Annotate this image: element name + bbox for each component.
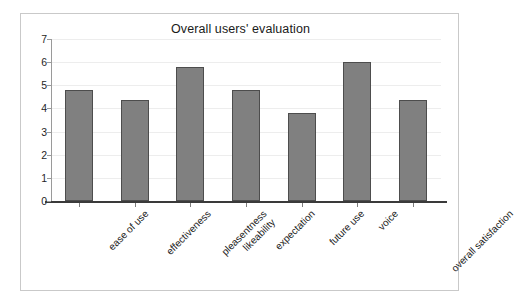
x-axis-tick-mark — [135, 203, 136, 207]
x-axis-category-label: ease of use — [106, 208, 151, 253]
y-axis-tick-mark — [47, 108, 51, 109]
chart-title: Overall users' evaluation — [21, 22, 460, 36]
x-axis-category-label: voice — [376, 208, 401, 233]
bar-slot — [385, 39, 441, 201]
x-axis-category-label-line: overall satisfaction — [449, 208, 515, 274]
chart-frame: Overall users' evaluation 76543210 ease … — [20, 13, 459, 291]
bar-slot — [330, 39, 386, 201]
y-axis-tick-label: 6 — [29, 56, 47, 68]
bar[interactable] — [399, 100, 427, 201]
y-axis-tick-label: 2 — [29, 149, 47, 161]
bar-slot — [162, 39, 218, 201]
y-axis-tick-label: 7 — [29, 33, 47, 45]
y-axis-tick-label: 4 — [29, 102, 47, 114]
bar[interactable] — [121, 100, 149, 201]
x-axis-category-label-line: effectiveness — [164, 208, 213, 257]
bar[interactable] — [288, 113, 316, 201]
y-axis-tick-mark — [47, 201, 51, 202]
x-axis-category-label-line: ease of use — [106, 208, 150, 252]
x-axis-tick-mark — [413, 203, 414, 207]
bar[interactable] — [343, 62, 371, 201]
x-axis-category-label: expectation — [273, 208, 318, 253]
bar-slot — [274, 39, 330, 201]
y-axis-tick-mark — [47, 178, 51, 179]
x-axis-category-label: overall satisfaction — [449, 208, 516, 275]
x-axis-category-label-line: voice — [376, 208, 400, 232]
x-axis-category-label: future use — [327, 208, 367, 248]
x-axis-tick-mark — [246, 203, 247, 207]
bar[interactable] — [65, 90, 93, 201]
x-axis-category-label: pleasentnesslikeability — [220, 208, 279, 267]
bar-slot — [218, 39, 274, 201]
bar-slot — [51, 39, 107, 201]
x-axis-category-label-line: expectation — [273, 208, 317, 252]
x-axis-category-labels: ease of useeffectivenesspleasentnesslike… — [51, 204, 441, 292]
x-axis-category-label: effectiveness — [164, 208, 214, 258]
y-axis-tick-mark — [47, 85, 51, 86]
bars-layer — [51, 39, 441, 201]
y-axis-tick-mark — [47, 132, 51, 133]
bar[interactable] — [232, 90, 260, 201]
x-axis-tick-mark — [357, 203, 358, 207]
y-axis-tick-mark — [47, 155, 51, 156]
y-axis-tick-label: 3 — [29, 126, 47, 138]
y-axis-tick-label: 5 — [29, 79, 47, 91]
x-axis-tick-mark — [302, 203, 303, 207]
bar-slot — [107, 39, 163, 201]
y-axis-tick-mark — [47, 39, 51, 40]
y-axis-tick-mark — [47, 62, 51, 63]
x-axis-tick-mark — [190, 203, 191, 207]
x-axis-tick-mark — [79, 203, 80, 207]
bar[interactable] — [176, 67, 204, 201]
x-axis-category-label-line: future use — [327, 208, 366, 247]
y-axis-tick-labels: 76543210 — [21, 39, 47, 201]
y-axis-tick-label: 1 — [29, 172, 47, 184]
